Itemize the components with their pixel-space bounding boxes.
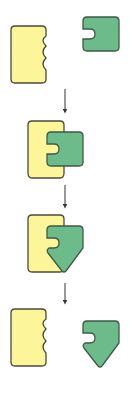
stage-4	[11, 309, 119, 367]
green-notched-block	[83, 17, 119, 51]
yellow-block	[11, 309, 46, 366]
stage-3	[28, 215, 83, 272]
stage-1	[11, 17, 119, 83]
diagram-canvas	[0, 0, 136, 394]
yellow-block	[11, 26, 46, 83]
green-pentagon-block	[83, 321, 119, 367]
stage-2	[28, 121, 83, 178]
